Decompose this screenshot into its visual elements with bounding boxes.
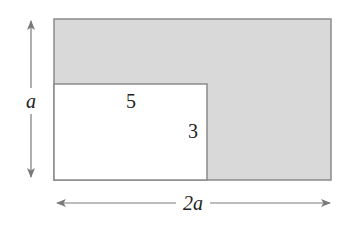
area-diagram: a 2a 5 3 (0, 0, 348, 229)
outer-height-label: a (26, 90, 36, 112)
inner-height-label: 3 (188, 120, 198, 142)
inner-width-label: 5 (126, 90, 136, 112)
outer-width-label: 2a (183, 192, 203, 214)
